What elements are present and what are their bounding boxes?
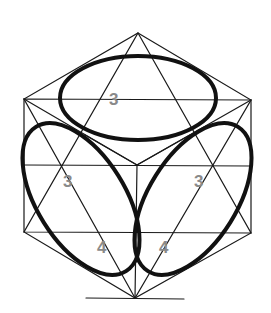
diagram-drawing	[0, 0, 271, 313]
label-right-face-lower: 4	[159, 239, 168, 256]
base-line	[86, 298, 184, 299]
label-left-face-upper: 3	[63, 173, 72, 190]
hexagram-down-triangle	[24, 99, 251, 298]
cube-ellipse-diagram: 3 3 3 4 4	[0, 0, 271, 313]
hexagram-up-triangle	[24, 33, 251, 233]
top-face-ellipse	[60, 56, 216, 140]
label-right-face-upper: 3	[194, 173, 203, 190]
right-face-ellipse	[111, 104, 271, 295]
label-top-face: 3	[109, 91, 118, 108]
label-left-face-lower: 4	[97, 239, 106, 256]
